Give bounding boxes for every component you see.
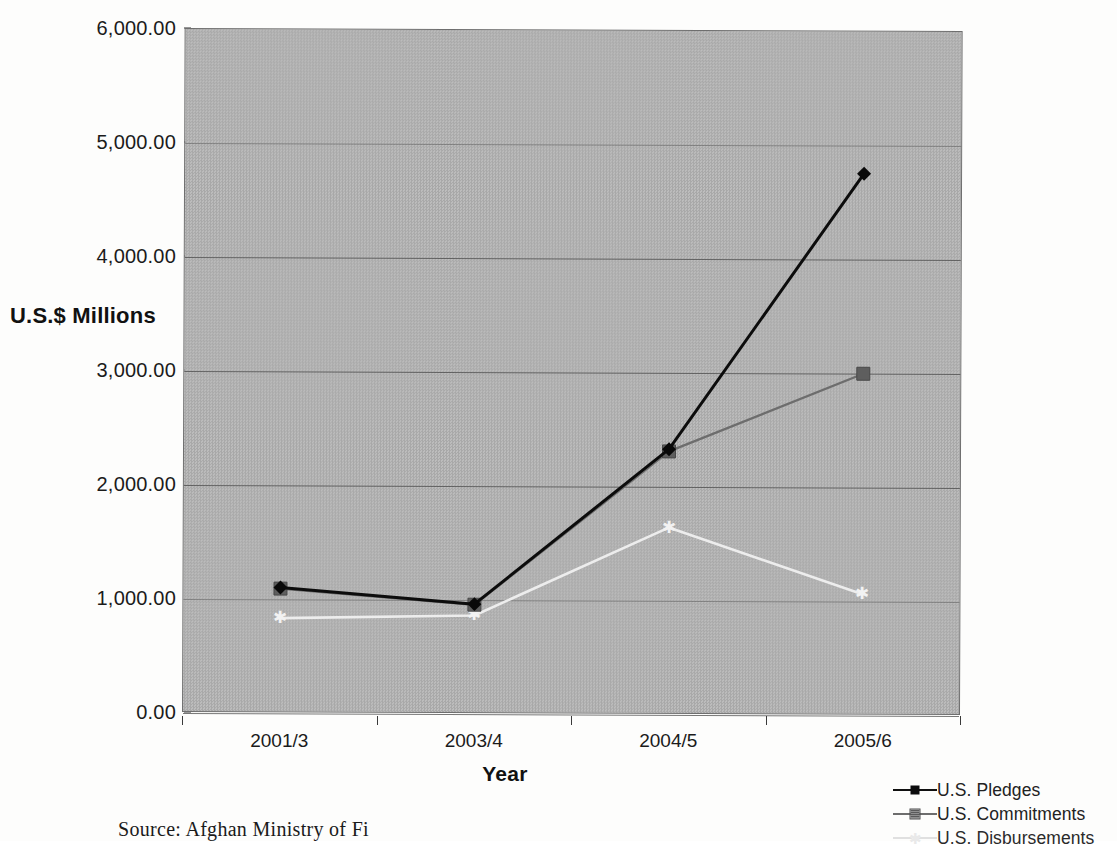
- data-point-marker: ✱: [662, 518, 676, 537]
- data-point-marker: [857, 367, 870, 380]
- legend-key-marker: [910, 809, 921, 820]
- legend-item-label: U.S. Disbursements: [937, 828, 1094, 848]
- source-note: Source: Afghan Ministry of Fi: [118, 818, 369, 841]
- x-axis-tick-label: 2003/4: [404, 730, 544, 752]
- chart-legend: U.S. PledgesU.S. Commitments✱U.S. Disbur…: [893, 778, 1117, 848]
- legend-key-diamond-icon: [893, 780, 937, 800]
- series-line: [280, 526, 862, 620]
- y-axis-tick-label: 6,000.00: [16, 17, 176, 40]
- series-layer: ✱✱✱✱: [183, 29, 962, 714]
- series-line: [280, 171, 864, 605]
- data-point-marker: ✱: [273, 608, 287, 627]
- legend-key-square-icon: [893, 804, 937, 824]
- x-axis-tick-mark: [960, 716, 961, 725]
- y-axis-tick-label: 3,000.00: [16, 359, 176, 382]
- x-axis-tick-mark: [766, 716, 767, 725]
- series-diamond: [273, 164, 871, 612]
- series-star: ✱✱✱✱: [273, 516, 869, 629]
- legend-item: ✱U.S. Disbursements: [893, 826, 1117, 848]
- y-axis-tick-label: 2,000.00: [16, 473, 176, 496]
- y-axis-title: U.S.$ Millions: [10, 303, 156, 329]
- legend-item: U.S. Commitments: [893, 802, 1117, 826]
- legend-item: U.S. Pledges: [893, 778, 1117, 802]
- legend-key-marker: [911, 786, 920, 795]
- x-axis-tick-label: 2001/3: [209, 730, 349, 752]
- x-axis-tick-mark: [182, 716, 183, 725]
- y-axis-tick-label: 4,000.00: [16, 245, 176, 268]
- legend-key-marker: ✱: [909, 832, 922, 845]
- y-axis-tick-layer: 6,000.005,000.004,000.003,000.002,000.00…: [8, 28, 176, 712]
- legend-item-label: U.S. Commitments: [937, 804, 1085, 825]
- x-axis-title: Year: [0, 762, 1010, 786]
- legend-item-label: U.S. Pledges: [937, 780, 1040, 801]
- data-point-marker: ✱: [855, 584, 869, 603]
- x-axis-tick-label: 2005/6: [793, 730, 933, 752]
- y-axis-tick-label: 1,000.00: [16, 587, 176, 610]
- y-axis-tick-label: 5,000.00: [16, 131, 176, 154]
- plot-area: ✱✱✱✱: [182, 28, 963, 715]
- y-axis-tick-label: 0.00: [16, 701, 176, 724]
- series-square: [274, 365, 870, 613]
- legend-key-star-icon: ✱: [893, 828, 937, 848]
- x-axis-tick-label: 2004/5: [598, 730, 738, 752]
- x-axis-tick-layer: 2001/32003/42004/52005/6: [182, 716, 960, 750]
- x-axis-tick-mark: [571, 716, 572, 725]
- x-axis-tick-mark: [377, 716, 378, 725]
